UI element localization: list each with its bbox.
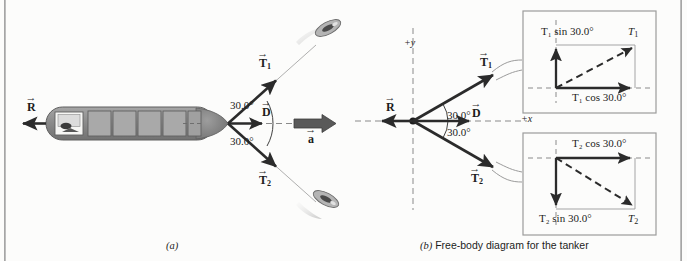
label-vector-acceleration-panel-a: a (308, 133, 314, 145)
angle-label-lower-panel-b: 30.0° (447, 127, 471, 138)
axis-label-y-panel-b: +y (404, 38, 415, 48)
label-T1-resultant: T1 (628, 26, 638, 39)
label-T1-sin-component: T₁ sin 30.0° (541, 26, 594, 37)
label-vector-T1-panel-a: T1 (259, 57, 271, 71)
axis-label-x-panel-b: +x (521, 114, 532, 124)
angle-label-lower-panel-a: 30.0° (230, 136, 254, 147)
connector-brace-bottom (492, 162, 522, 182)
label-vector-R-panel-b: R (386, 101, 395, 113)
label-vector-T2-panel-a: T2 (259, 174, 271, 188)
label-T2-sin-component: T₂ sin 30.0° (539, 213, 592, 224)
label-vector-T1-panel-b: T1 (480, 56, 492, 70)
physics-figure: R T1 T2 D a 30.0° 30.0° (a) +y +x R T1 T… (0, 0, 687, 261)
angle-label-upper-panel-a: 30.0° (230, 100, 254, 111)
tugboat-lower (296, 187, 341, 219)
label-T1-cos-component: T₁ cos 30.0° (572, 92, 626, 103)
vector-T1-panel-a (228, 45, 316, 124)
caption-panel-b: (b) Free-body diagram for the tanker (420, 240, 589, 252)
label-T2-resultant: T2 (628, 213, 638, 226)
label-vector-R-panel-a: R (27, 101, 36, 113)
label-vector-D-panel-a: D (262, 106, 271, 118)
connector-brace-top (492, 60, 522, 80)
tanker-ship (46, 107, 228, 140)
angle-label-upper-panel-b: 30.0° (447, 110, 471, 121)
tugboat-upper (296, 16, 343, 45)
label-T2-cos-component: T₂ cos 30.0° (572, 138, 626, 149)
caption-panel-a: (a) (166, 240, 178, 252)
label-vector-T2-panel-b: T2 (471, 172, 483, 186)
label-vector-D-panel-b: D (472, 107, 481, 119)
